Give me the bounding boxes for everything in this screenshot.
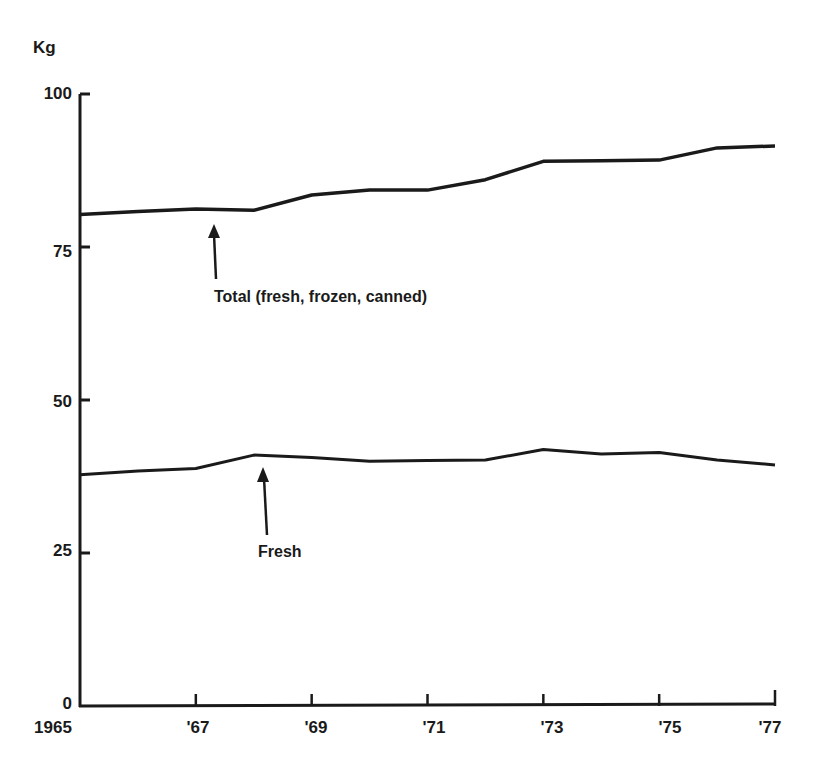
x-tick-label-69: '69 — [286, 718, 346, 738]
fresh-series-line — [80, 450, 775, 475]
y-tick-label-25: 25 — [22, 541, 72, 561]
y-axis-unit-label: Kg — [33, 38, 56, 58]
x-tick-label-1965: 1965 — [23, 718, 83, 738]
total-series-label: Total (fresh, frozen, canned) — [214, 288, 427, 306]
y-tick-label-100: 100 — [22, 84, 72, 104]
x-tick-label-67: '67 — [168, 718, 228, 738]
x-tick-label-73: '73 — [522, 718, 582, 738]
y-tick-label-0: 0 — [22, 694, 72, 714]
x-tick-label-71: '71 — [404, 718, 464, 738]
data-series — [80, 146, 775, 475]
x-tick-label-75: '75 — [640, 718, 700, 738]
total-annotation-arrow — [208, 224, 220, 279]
fresh-annotation-arrow — [257, 467, 269, 535]
total-series-line — [80, 146, 775, 215]
line-chart — [0, 0, 823, 780]
x-tick-label-77: '77 — [740, 718, 800, 738]
y-tick-label-50: 50 — [22, 392, 72, 412]
y-tick-label-75: 75 — [22, 242, 72, 262]
fresh-series-label: Fresh — [258, 543, 302, 561]
